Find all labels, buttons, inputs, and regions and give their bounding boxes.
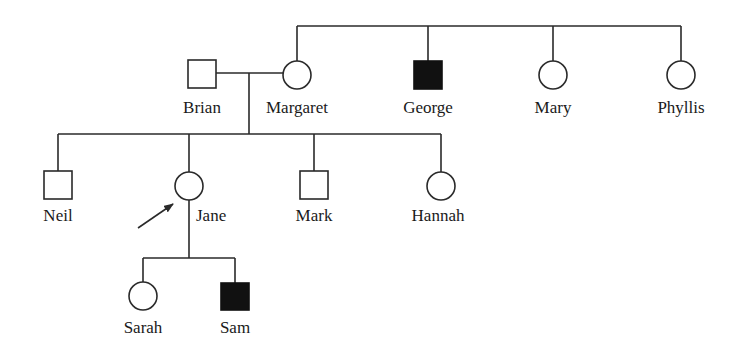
individual-jane[interactable]: Jane — [175, 172, 226, 225]
male-unaffected-icon — [300, 171, 328, 199]
male-affected-icon — [414, 61, 442, 89]
individual-phyllis[interactable]: Phyllis — [657, 61, 704, 117]
label-margaret: Margaret — [266, 98, 328, 117]
individual-sarah[interactable]: Sarah — [124, 282, 163, 337]
individual-hannah[interactable]: Hannah — [412, 172, 465, 225]
individual-margaret[interactable]: Margaret — [266, 61, 328, 117]
female-unaffected-icon — [283, 61, 311, 89]
label-george: George — [403, 98, 453, 117]
label-sarah: Sarah — [124, 318, 163, 337]
individual-sam[interactable]: Sam — [220, 283, 250, 337]
female-unaffected-icon — [129, 282, 157, 310]
pedigree-diagram: Brian Margaret George Mary Phyllis Neil … — [0, 0, 740, 355]
individual-brian[interactable]: Brian — [183, 60, 221, 117]
sibship-line-gen2 — [58, 134, 441, 172]
label-mary: Mary — [535, 98, 572, 117]
female-unaffected-icon — [667, 61, 695, 89]
sibship-line-gen3 — [143, 258, 235, 283]
female-unaffected-icon — [175, 172, 203, 200]
individual-george[interactable]: George — [403, 61, 453, 117]
individual-mark[interactable]: Mark — [296, 171, 333, 225]
label-jane: Jane — [196, 206, 226, 225]
female-unaffected-icon — [539, 61, 567, 89]
female-unaffected-icon — [427, 172, 455, 200]
male-unaffected-icon — [44, 171, 72, 199]
label-phyllis: Phyllis — [657, 98, 704, 117]
male-unaffected-icon — [188, 60, 216, 88]
proband-arrow-icon — [138, 204, 173, 228]
male-affected-icon — [221, 283, 249, 310]
label-hannah: Hannah — [412, 206, 465, 225]
individual-mary[interactable]: Mary — [535, 61, 572, 117]
label-brian: Brian — [183, 98, 221, 117]
label-mark: Mark — [296, 206, 333, 225]
individual-neil[interactable]: Neil — [43, 171, 73, 225]
label-neil: Neil — [43, 206, 73, 225]
label-sam: Sam — [220, 318, 250, 337]
sibship-line-gen1 — [297, 26, 681, 61]
